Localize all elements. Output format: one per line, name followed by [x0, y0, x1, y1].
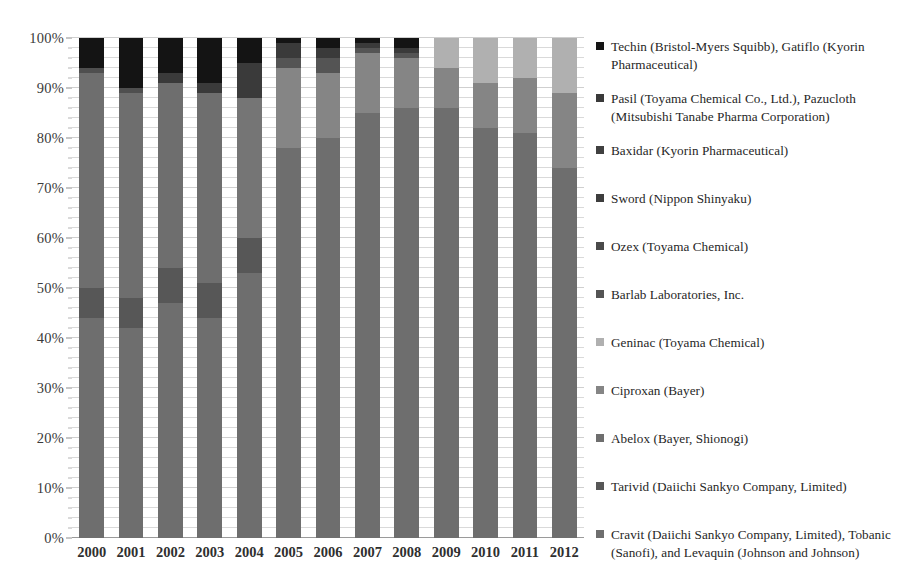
bar-segment-techin-gatiflo[interactable]: [79, 38, 104, 68]
bar-segment-abelox[interactable]: [119, 93, 144, 298]
bar-segment-cravit-tobanic-levaquin[interactable]: [197, 318, 222, 538]
bar-segment-tarivid[interactable]: [197, 283, 222, 318]
bar-segment-tarivid[interactable]: [79, 288, 104, 318]
bar-segment-pasil-pazucloth[interactable]: [394, 48, 419, 53]
legend-swatch-icon: [596, 530, 604, 538]
bar-segment-cravit-tobanic-levaquin[interactable]: [158, 303, 183, 538]
bar-segment-barlab[interactable]: [316, 58, 341, 73]
bar-segment-abelox[interactable]: [79, 73, 104, 288]
legend-item[interactable]: Tarivid (Daiichi Sankyo Company, Limited…: [596, 478, 902, 496]
bar-segment-ciproxan[interactable]: [513, 78, 538, 133]
legend-swatch-icon: [596, 242, 604, 250]
stacked-bar-chart: 0%10%20%30%40%50%60%70%80%90%100% 200020…: [0, 0, 908, 581]
bar-segment-cravit-tobanic-levaquin[interactable]: [79, 318, 104, 538]
legend-item[interactable]: Cravit (Daiichi Sankyo Company, Limited)…: [596, 526, 902, 562]
bar-segment-cravit-tobanic-levaquin[interactable]: [473, 128, 498, 538]
y-axis-tick-label: 10%: [37, 480, 64, 497]
legend-swatch-icon: [596, 146, 604, 154]
bar-segment-cravit-tobanic-levaquin[interactable]: [119, 328, 144, 538]
bar-segment-cravit-tobanic-levaquin[interactable]: [394, 108, 419, 538]
bar-segment-techin-gatiflo[interactable]: [276, 38, 301, 43]
y-axis: 0%10%20%30%40%50%60%70%80%90%100%: [0, 38, 72, 538]
legend-item[interactable]: Techin (Bristol-Myers Squibb), Gatiflo (…: [596, 38, 902, 74]
bar-segment-cravit-tobanic-levaquin[interactable]: [316, 138, 341, 538]
legend-item-label: Techin (Bristol-Myers Squibb), Gatiflo (…: [611, 38, 902, 74]
legend-item[interactable]: Geninac (Toyama Chemical): [596, 334, 902, 352]
x-axis-tick-label-2011: 2011: [505, 544, 544, 561]
bar-segment-tarivid[interactable]: [119, 298, 144, 328]
legend-item[interactable]: Pasil (Toyama Chemical Co., Ltd.), Pazuc…: [596, 90, 902, 126]
bar-segment-techin-gatiflo[interactable]: [119, 38, 144, 88]
x-axis-tick-label-2008: 2008: [387, 544, 426, 561]
bar-segment-geninac[interactable]: [473, 38, 498, 83]
bar-segment-cravit-tobanic-levaquin[interactable]: [355, 113, 380, 538]
bar-segment-ciproxan[interactable]: [394, 58, 419, 108]
bar-2000[interactable]: [79, 38, 104, 538]
bar-segment-techin-gatiflo[interactable]: [237, 38, 262, 63]
bar-segment-barlab[interactable]: [119, 88, 144, 93]
bar-2011[interactable]: [513, 38, 538, 538]
bar-segment-pasil-pazucloth[interactable]: [197, 83, 222, 93]
bar-segment-techin-gatiflo[interactable]: [355, 38, 380, 43]
bar-segment-ciproxan[interactable]: [552, 93, 577, 168]
bar-2010[interactable]: [473, 38, 498, 538]
bar-segment-cravit-tobanic-levaquin[interactable]: [237, 273, 262, 538]
y-axis-tick-label: 100%: [29, 30, 64, 47]
legend-item[interactable]: Sword (Nippon Shinyaku): [596, 190, 902, 208]
legend-swatch-icon: [596, 386, 604, 394]
bar-segment-ciproxan[interactable]: [473, 83, 498, 128]
bar-segment-cravit-tobanic-levaquin[interactable]: [552, 168, 577, 538]
bar-segment-geninac[interactable]: [434, 38, 459, 68]
bar-2005[interactable]: [276, 38, 301, 538]
bar-2008[interactable]: [394, 38, 419, 538]
x-axis-tick-label-2001: 2001: [111, 544, 150, 561]
bar-2009[interactable]: [434, 38, 459, 538]
legend-item-label: Barlab Laboratories, Inc.: [611, 286, 744, 304]
legend-item[interactable]: Ozex (Toyama Chemical): [596, 238, 902, 256]
bar-segment-pasil-pazucloth[interactable]: [276, 43, 301, 58]
legend-item[interactable]: Baxidar (Kyorin Pharmaceutical): [596, 142, 902, 160]
bar-segment-barlab[interactable]: [276, 58, 301, 68]
bar-2012[interactable]: [552, 38, 577, 538]
bar-segment-techin-gatiflo[interactable]: [316, 38, 341, 48]
x-axis: 2000200120022003200420052006200720082009…: [72, 538, 584, 568]
bar-2006[interactable]: [316, 38, 341, 538]
bar-2004[interactable]: [237, 38, 262, 538]
bar-segment-ciproxan[interactable]: [316, 73, 341, 138]
bar-segment-techin-gatiflo[interactable]: [197, 38, 222, 83]
bar-segment-cravit-tobanic-levaquin[interactable]: [434, 108, 459, 538]
bar-segment-ciproxan[interactable]: [355, 53, 380, 113]
bar-segment-cravit-tobanic-levaquin[interactable]: [276, 148, 301, 538]
bar-segment-techin-gatiflo[interactable]: [158, 38, 183, 73]
legend-item[interactable]: Abelox (Bayer, Shionogi): [596, 430, 902, 448]
legend-item[interactable]: Barlab Laboratories, Inc.: [596, 286, 902, 304]
legend-swatch-icon: [596, 290, 604, 298]
bar-2003[interactable]: [197, 38, 222, 538]
bar-segment-abelox[interactable]: [237, 98, 262, 238]
x-axis-tick-label-2000: 2000: [72, 544, 111, 561]
bar-segment-techin-gatiflo[interactable]: [394, 38, 419, 48]
bar-2007[interactable]: [355, 38, 380, 538]
legend-item-label: Pasil (Toyama Chemical Co., Ltd.), Pazuc…: [611, 90, 902, 126]
bar-segment-pasil-pazucloth[interactable]: [158, 73, 183, 83]
legend-swatch-icon: [596, 94, 604, 102]
bar-2002[interactable]: [158, 38, 183, 538]
bar-segment-barlab[interactable]: [79, 68, 104, 73]
bar-segment-tarivid[interactable]: [237, 238, 262, 273]
bar-segment-pasil-pazucloth[interactable]: [355, 43, 380, 48]
bar-segment-barlab[interactable]: [394, 53, 419, 58]
bar-segment-tarivid[interactable]: [158, 268, 183, 303]
bar-segment-geninac[interactable]: [552, 38, 577, 93]
bar-segment-geninac[interactable]: [513, 38, 538, 78]
legend-item-label: Tarivid (Daiichi Sankyo Company, Limited…: [611, 478, 847, 496]
legend-item[interactable]: Ciproxan (Bayer): [596, 382, 902, 400]
bar-segment-abelox[interactable]: [197, 93, 222, 283]
bar-segment-pasil-pazucloth[interactable]: [237, 63, 262, 98]
bar-segment-pasil-pazucloth[interactable]: [316, 48, 341, 58]
bar-2001[interactable]: [119, 38, 144, 538]
bar-segment-abelox[interactable]: [158, 83, 183, 268]
bar-segment-cravit-tobanic-levaquin[interactable]: [513, 133, 538, 538]
bar-segment-ciproxan[interactable]: [434, 68, 459, 108]
bar-segment-barlab[interactable]: [355, 48, 380, 53]
bar-segment-ciproxan[interactable]: [276, 68, 301, 148]
